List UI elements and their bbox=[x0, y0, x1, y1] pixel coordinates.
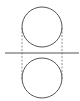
top-circle bbox=[22, 7, 62, 47]
bottom-circle bbox=[22, 58, 62, 98]
diagram-canvas bbox=[0, 0, 80, 101]
